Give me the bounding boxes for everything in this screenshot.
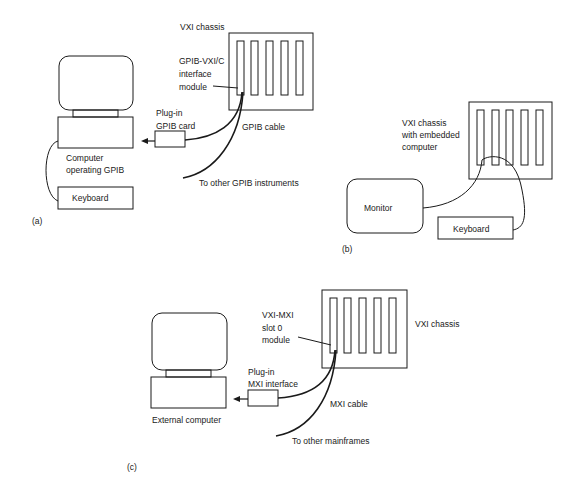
chassis-label: VXI chassis xyxy=(180,21,224,33)
computer-icon xyxy=(58,56,133,148)
module-label: interface xyxy=(179,68,212,80)
other-instruments-cable xyxy=(183,92,243,178)
cable-label: MXI cable xyxy=(330,398,368,410)
card-label: Plug-in xyxy=(156,107,182,119)
panel-b xyxy=(347,102,552,239)
chassis-label: VXI chassis xyxy=(415,318,459,330)
module-label: GPIB-VXI/C xyxy=(179,55,224,67)
card-label: GPIB card xyxy=(156,120,195,132)
vxi-configurations-diagram: VXI chassis GPIB-VXI/C interface module … xyxy=(0,0,584,480)
computer-label: External computer xyxy=(152,414,221,426)
computer-label: operating GPIB xyxy=(66,164,124,176)
panel-tag: (c) xyxy=(127,461,137,473)
keyboard-label: Keyboard xyxy=(453,223,489,235)
module-label: slot 0 xyxy=(262,322,282,334)
module-label: module xyxy=(262,334,290,346)
vxi-chassis-embedded xyxy=(469,102,552,179)
chassis-label: VXI chassis xyxy=(402,117,446,129)
monitor-cable xyxy=(423,160,482,208)
monitor-label: Monitor xyxy=(364,202,392,214)
module-label: module xyxy=(179,81,207,93)
module-label: VXI-MXI xyxy=(262,309,294,321)
mxi-cable xyxy=(278,350,335,398)
others-label: To other mainframes xyxy=(292,435,369,447)
plugin-gpib-card xyxy=(155,131,185,147)
module-pointer xyxy=(298,337,331,345)
keyboard-label: Keyboard xyxy=(72,192,108,204)
others-label: To other GPIB instruments xyxy=(199,177,299,189)
keyboard-cable xyxy=(482,157,525,230)
chassis-label: with embedded xyxy=(402,129,460,141)
arrow-icon xyxy=(233,396,240,402)
cable-label: GPIB cable xyxy=(242,121,285,133)
module-pointer xyxy=(213,86,238,88)
panel-tag: (b) xyxy=(342,243,352,255)
computer-icon xyxy=(151,313,227,408)
card-label: Plug-in xyxy=(248,366,274,378)
keyboard-cable xyxy=(46,141,58,201)
panel-tag: (a) xyxy=(32,215,42,227)
plugin-mxi-interface xyxy=(248,390,278,406)
computer-label: Computer xyxy=(66,152,103,164)
card-label: MXI interface xyxy=(248,378,298,390)
arrow-icon xyxy=(141,138,148,144)
chassis-label: computer xyxy=(402,141,437,153)
